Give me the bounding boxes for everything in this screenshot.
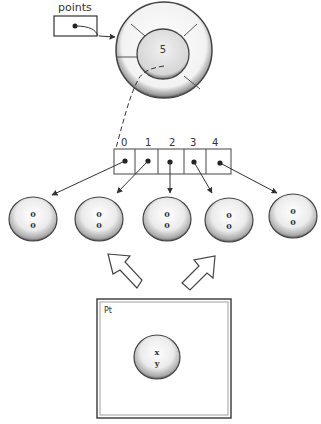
points-variable: points: [54, 1, 115, 37]
point-y-value: 0: [164, 220, 170, 230]
array-cells: 0 1 2 3 4: [52, 137, 277, 195]
point-x-value: 0: [164, 209, 170, 219]
point-x-value: 0: [30, 209, 36, 219]
point-y-value: 0: [226, 221, 232, 231]
field-x: x: [155, 347, 160, 357]
reference-arrow-icon: [99, 36, 115, 37]
array-length-value: 5: [160, 44, 166, 55]
point-x-value: 0: [290, 206, 296, 216]
point-x-value: 0: [226, 210, 232, 220]
point-x-value: 0: [96, 209, 102, 219]
point-y-value: 0: [96, 220, 102, 230]
field-y: y: [154, 358, 160, 368]
pointer-arrow-icon: [220, 163, 277, 193]
point-y-value: 0: [290, 217, 296, 227]
class-instance-ball: [134, 335, 180, 379]
class-box-pt: Pt x y: [97, 299, 231, 418]
point-object-3: 0 0: [205, 198, 253, 242]
index-label: 4: [212, 137, 218, 148]
index-label: 0: [121, 137, 127, 148]
point-object-0: 0 0: [9, 197, 57, 241]
hollow-arrow-right-icon: [182, 256, 215, 290]
index-label: 3: [190, 137, 196, 148]
point-objects: 0 0 0 0 0 0 0 0 0 0: [9, 194, 317, 242]
index-label: 2: [169, 137, 175, 148]
point-object-2: 0 0: [143, 197, 191, 241]
class-title: Pt: [104, 306, 112, 315]
points-label: points: [58, 1, 92, 14]
array-object: 5: [116, 2, 212, 148]
point-object-1: 0 0: [75, 197, 123, 241]
index-label: 1: [145, 137, 151, 148]
pointer-arrow-icon: [52, 161, 125, 195]
instantiation-arrows: [108, 254, 215, 290]
hollow-arrow-left-icon: [108, 254, 142, 288]
point-object-4: 0 0: [269, 194, 317, 238]
point-y-value: 0: [30, 220, 36, 230]
diagram-canvas: points 5 0 1 2 3 4: [0, 0, 321, 424]
